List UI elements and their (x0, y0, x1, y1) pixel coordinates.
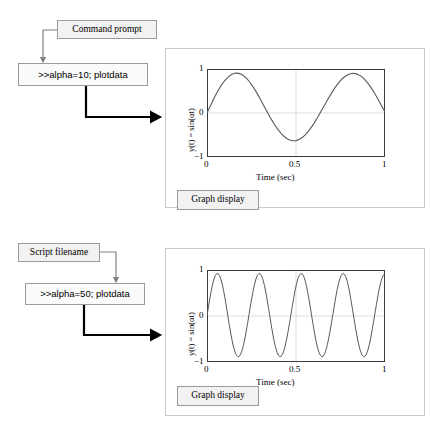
connector-command-to-display-2 (84, 305, 160, 335)
xaxis-label-2: Time (sec) (256, 377, 294, 387)
ytick-label-mid-1: 0 (199, 107, 204, 117)
xtick-label-05-1: 0.5 (289, 159, 300, 169)
script-filename-callout-label: Script filename (30, 248, 88, 258)
ytick-label-top-2: 1 (199, 264, 204, 274)
graph-display-caption-label-1: Graph display (191, 195, 245, 205)
xtick-label-05-2: 0.5 (289, 364, 300, 374)
graph-display-caption-2[interactable]: Graph display (177, 386, 259, 406)
graph-display-caption-1[interactable]: Graph display (177, 190, 259, 210)
ytick-label-bot-2: −1 (194, 356, 204, 366)
script-filename-callout[interactable]: Script filename (18, 243, 100, 262)
ytick-label-mid-2: 0 (199, 310, 204, 320)
plot-area-2 (207, 270, 385, 362)
xaxis-label-1: Time (sec) (256, 172, 294, 182)
command-prompt-callout-label: Command prompt (72, 25, 141, 35)
command-line-box-alpha-50[interactable]: >>alpha=50; plotdata (25, 283, 145, 305)
xtick-label-1-1: 1 (382, 159, 387, 169)
command-line-text-alpha-10: >>alpha=10; plotdata (38, 70, 128, 80)
command-line-box-alpha-10[interactable]: >>alpha=10; plotdata (18, 63, 148, 86)
ytick-label-bot-1: −1 (194, 151, 204, 161)
yaxis-label-2: y(t) = sin(αt) (186, 312, 196, 356)
connector-callout-to-command-2 (100, 252, 116, 280)
plot-svg-1 (207, 69, 385, 157)
xtick-label-0-1: 0 (204, 159, 209, 169)
xtick-label-1-2: 1 (382, 364, 387, 374)
connector-callout-to-command-1 (43, 30, 57, 60)
command-line-text-alpha-50: >>alpha=50; plotdata (40, 289, 130, 299)
graph-display-caption-label-2: Graph display (191, 391, 245, 401)
ytick-label-top-1: 1 (199, 63, 204, 73)
plot-area-1 (207, 69, 385, 157)
plot-svg-2 (207, 270, 385, 362)
xtick-label-0-2: 0 (204, 364, 209, 374)
figure-root: Command prompt >>alpha=10; plotdata Grap… (0, 0, 430, 446)
connector-command-to-display-1 (86, 86, 160, 117)
yaxis-label-1: y(t) = sin(αt) (186, 108, 196, 152)
command-prompt-callout[interactable]: Command prompt (57, 20, 157, 39)
